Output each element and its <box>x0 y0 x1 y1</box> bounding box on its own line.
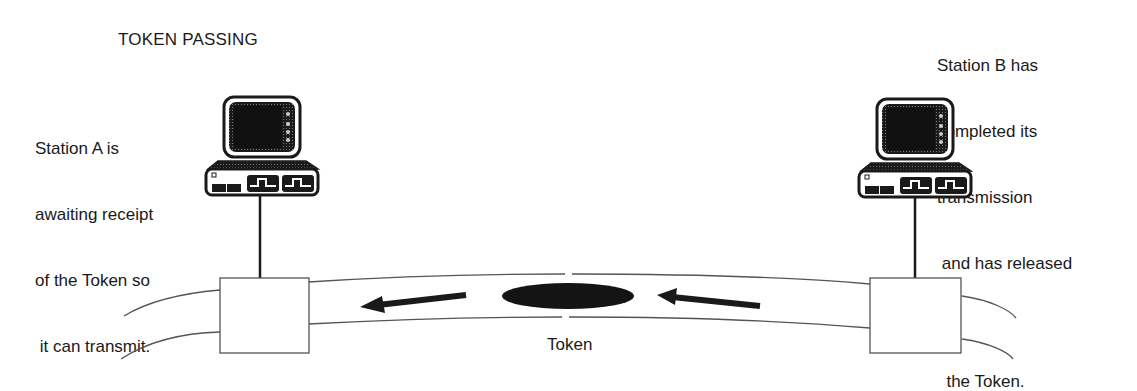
station-b-interface-box <box>870 278 961 353</box>
station-b-computer-icon <box>859 99 971 197</box>
token-label: Token <box>547 335 592 355</box>
left-direction-arrow-icon <box>360 295 466 313</box>
station-a-interface-box <box>220 278 309 353</box>
token-icon <box>502 283 634 309</box>
station-a-computer-icon <box>206 97 318 195</box>
right-direction-arrow-icon <box>657 288 760 306</box>
